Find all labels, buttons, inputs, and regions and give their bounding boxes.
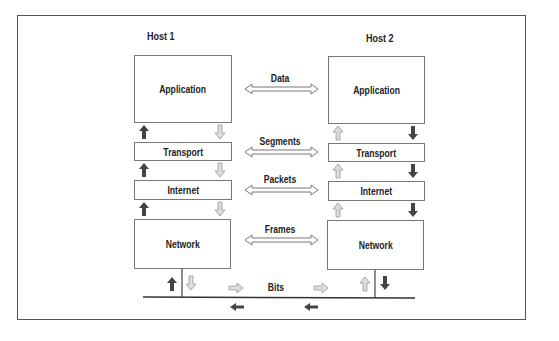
- frames-double-arrow-icon: [245, 235, 318, 245]
- bus-line: [143, 297, 415, 298]
- segments-double-arrow-icon: [245, 147, 318, 157]
- packets-double-arrow-icon: [245, 185, 318, 195]
- data-double-arrow-icon: [245, 84, 318, 94]
- arrows-layer: [0, 0, 559, 341]
